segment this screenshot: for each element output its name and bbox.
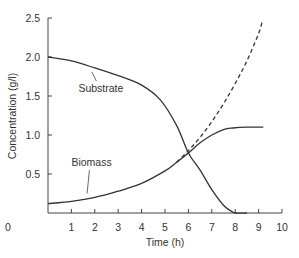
x-tick-label: 5	[162, 221, 168, 233]
annotation-substrate: Substrate	[78, 82, 123, 94]
annotation-leader-line	[92, 72, 97, 81]
y-tick-label: 2.5	[25, 12, 40, 24]
x-axis-label: Time (h)	[146, 236, 185, 248]
series-biomass-unlimited-growth	[177, 22, 262, 162]
x-tick-label: 7	[209, 221, 215, 233]
x-tick-label: 2	[92, 221, 98, 233]
annotations: SubstrateBiomass	[71, 72, 123, 193]
x-tick-label: 1	[68, 221, 74, 233]
y-tick-label: 0.5	[25, 168, 40, 180]
annotation-leader-line	[87, 170, 89, 193]
x-tick-label: 8	[232, 221, 238, 233]
y-tick-label: 1.0	[25, 129, 40, 141]
x-tick-label: 0	[5, 221, 11, 233]
x-tick-label: 3	[115, 221, 121, 233]
chart: 012345678910 0.51.01.52.02.5 SubstrateBi…	[0, 0, 299, 258]
x-tick-label: 6	[185, 221, 191, 233]
x-tick-label: 10	[276, 221, 288, 233]
x-tick-label: 4	[139, 221, 145, 233]
series-substrate	[48, 57, 247, 213]
series-lines	[48, 22, 263, 213]
y-tick-label: 2.0	[25, 51, 40, 63]
axes	[48, 18, 282, 213]
annotation-biomass: Biomass	[71, 156, 111, 168]
y-tick-label: 1.5	[25, 90, 40, 102]
x-tick-label: 9	[256, 221, 262, 233]
y-axis-label: Concentration (g/l)	[6, 73, 18, 159]
